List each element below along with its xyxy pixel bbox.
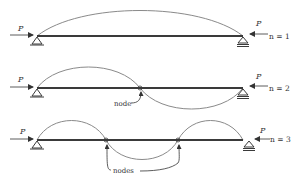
load-label-left: P (17, 24, 24, 33)
pin-support-icon (30, 141, 44, 149)
roller-support-icon (237, 37, 249, 47)
node-callout-arrow-icon (131, 92, 141, 103)
roller-support-icon (243, 141, 255, 151)
mode-label: n = 2 (269, 84, 290, 93)
load-label-right: P (255, 72, 262, 81)
load-label-right: P (255, 19, 262, 28)
node-callout-arrow-icon (107, 145, 111, 170)
node-callout-arrow-icon (140, 145, 179, 171)
nodes-label: nodes (113, 167, 134, 175)
load-label-left: P (19, 127, 26, 136)
mode-row-3: P P n = 3 nodes (10, 121, 291, 176)
pin-support-icon (30, 37, 44, 45)
mode-row-2: P P n = 2 node (10, 67, 290, 109)
node-label: node (114, 100, 131, 108)
buckled-shape-curve (37, 11, 243, 37)
mode-label: n = 3 (270, 135, 291, 144)
mode-row-1: P P n = 1 (10, 11, 290, 47)
load-label-left: P (17, 75, 24, 84)
buckling-modes-diagram: P P n = 1 P P n = 2 node (0, 0, 301, 192)
load-label-right: P (259, 126, 266, 135)
mode-label: n = 1 (269, 32, 290, 41)
roller-support-icon (237, 89, 249, 99)
pin-support-icon (30, 89, 44, 97)
